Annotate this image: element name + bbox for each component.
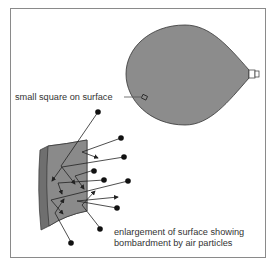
- balloon-knot: [249, 70, 259, 78]
- surface-enlargement: [39, 140, 87, 230]
- balloon: [126, 25, 259, 125]
- enlargement-label-line2: bombardment by air particles: [114, 238, 244, 249]
- enlargement-label: enlargement of surface showing bombardme…: [114, 227, 244, 249]
- enlargement-label-line1: enlargement of surface showing: [114, 227, 244, 238]
- small-square-label: small square on surface: [15, 92, 113, 103]
